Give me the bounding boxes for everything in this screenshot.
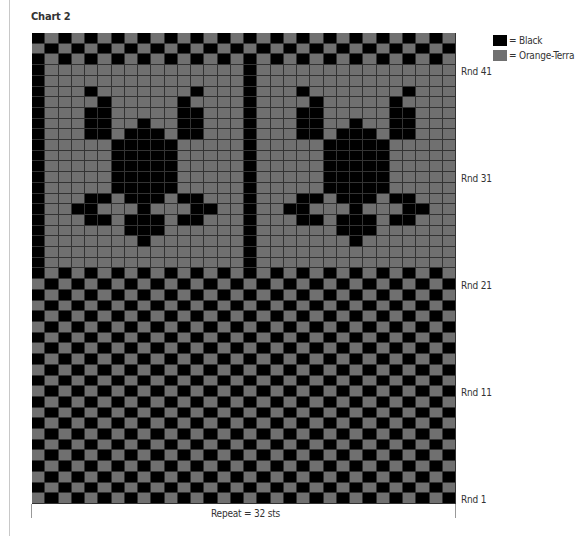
chart-cell bbox=[204, 365, 217, 376]
chart-cell bbox=[138, 172, 151, 183]
chart-cell bbox=[45, 183, 58, 194]
chart-cell bbox=[284, 408, 297, 419]
chart-cell bbox=[32, 87, 45, 98]
chart-cell bbox=[98, 483, 111, 494]
chart-cell bbox=[72, 429, 85, 440]
chart-cell bbox=[112, 290, 125, 301]
chart-cell bbox=[165, 365, 178, 376]
chart-cell bbox=[244, 247, 257, 258]
chart-cell bbox=[32, 119, 45, 130]
chart-cell bbox=[218, 472, 231, 483]
chart-cell bbox=[416, 279, 429, 290]
chart-cell bbox=[403, 354, 416, 365]
chart-cell bbox=[337, 108, 350, 119]
chart-cell bbox=[204, 87, 217, 98]
chart-cell bbox=[271, 236, 284, 247]
chart-cell bbox=[45, 204, 58, 215]
chart-cell bbox=[443, 376, 456, 387]
chart-cell bbox=[390, 172, 403, 183]
chart-cell bbox=[85, 258, 98, 269]
chart-cell bbox=[85, 108, 98, 119]
chart-cell bbox=[32, 33, 45, 44]
chart-cell bbox=[151, 204, 164, 215]
chart-cell bbox=[271, 472, 284, 483]
chart-cell bbox=[297, 151, 310, 162]
chart-cell bbox=[377, 450, 390, 461]
chart-cell bbox=[204, 194, 217, 205]
chart-cell bbox=[85, 140, 98, 151]
chart-cell bbox=[310, 290, 323, 301]
chart-cell bbox=[350, 290, 363, 301]
chart-cell bbox=[165, 247, 178, 258]
chart-cell bbox=[165, 44, 178, 55]
chart-cell bbox=[363, 450, 376, 461]
chart-cell bbox=[416, 236, 429, 247]
chart-cell bbox=[178, 129, 191, 140]
chart-cell bbox=[430, 54, 443, 65]
chart-cell bbox=[337, 311, 350, 322]
chart-cell bbox=[443, 161, 456, 172]
chart-cell bbox=[430, 450, 443, 461]
chart-cell bbox=[178, 87, 191, 98]
chart-cell bbox=[257, 493, 270, 504]
chart-cell bbox=[350, 76, 363, 87]
chart-cell bbox=[231, 258, 244, 269]
chart-cell bbox=[284, 87, 297, 98]
chart-cell bbox=[125, 301, 138, 312]
chart-cell bbox=[125, 450, 138, 461]
chart-cell bbox=[377, 108, 390, 119]
chart-cell bbox=[430, 151, 443, 162]
chart-cell bbox=[284, 108, 297, 119]
chart-cell bbox=[297, 87, 310, 98]
chart-cell bbox=[112, 226, 125, 237]
chart-cell bbox=[377, 44, 390, 55]
chart-cell bbox=[297, 236, 310, 247]
chart-cell bbox=[443, 450, 456, 461]
chart-cell bbox=[32, 54, 45, 65]
chart-cell bbox=[165, 151, 178, 162]
chart-cell bbox=[112, 108, 125, 119]
chart-cell bbox=[271, 119, 284, 130]
chart-cell bbox=[377, 183, 390, 194]
chart-cell bbox=[231, 418, 244, 429]
chart-cell bbox=[72, 333, 85, 344]
chart-cell bbox=[377, 215, 390, 226]
legend-item-orange-terra: = Orange-Terra bbox=[493, 49, 574, 62]
chart-cell bbox=[231, 236, 244, 247]
chart-cell bbox=[98, 279, 111, 290]
chart-cell bbox=[284, 483, 297, 494]
chart-cell bbox=[151, 397, 164, 408]
chart-cell bbox=[218, 87, 231, 98]
chart-cell bbox=[310, 97, 323, 108]
chart-cell bbox=[377, 119, 390, 130]
chart-cell bbox=[45, 461, 58, 472]
chart-cell bbox=[390, 333, 403, 344]
chart-cell bbox=[443, 108, 456, 119]
chart-cell bbox=[165, 33, 178, 44]
chart-cell bbox=[403, 108, 416, 119]
chart-cell bbox=[350, 129, 363, 140]
chart-cell bbox=[151, 483, 164, 494]
chart-cell bbox=[271, 429, 284, 440]
chart-cell bbox=[337, 343, 350, 354]
chart-cell bbox=[271, 226, 284, 237]
chart-cell bbox=[443, 65, 456, 76]
chart-cell bbox=[350, 194, 363, 205]
chart-cell bbox=[45, 354, 58, 365]
chart-cell bbox=[231, 226, 244, 237]
chart-cell bbox=[403, 258, 416, 269]
chart-cell bbox=[45, 65, 58, 76]
chart-cell bbox=[59, 354, 72, 365]
chart-cell bbox=[257, 33, 270, 44]
chart-cell bbox=[32, 408, 45, 419]
chart-cell bbox=[443, 365, 456, 376]
chart-cell bbox=[416, 87, 429, 98]
chart-cell bbox=[284, 386, 297, 397]
chart-cell bbox=[244, 172, 257, 183]
chart-cell bbox=[390, 108, 403, 119]
chart-cell bbox=[218, 119, 231, 130]
chart-cell bbox=[165, 97, 178, 108]
chart-cell bbox=[244, 472, 257, 483]
chart-cell bbox=[430, 268, 443, 279]
chart-cell bbox=[218, 311, 231, 322]
